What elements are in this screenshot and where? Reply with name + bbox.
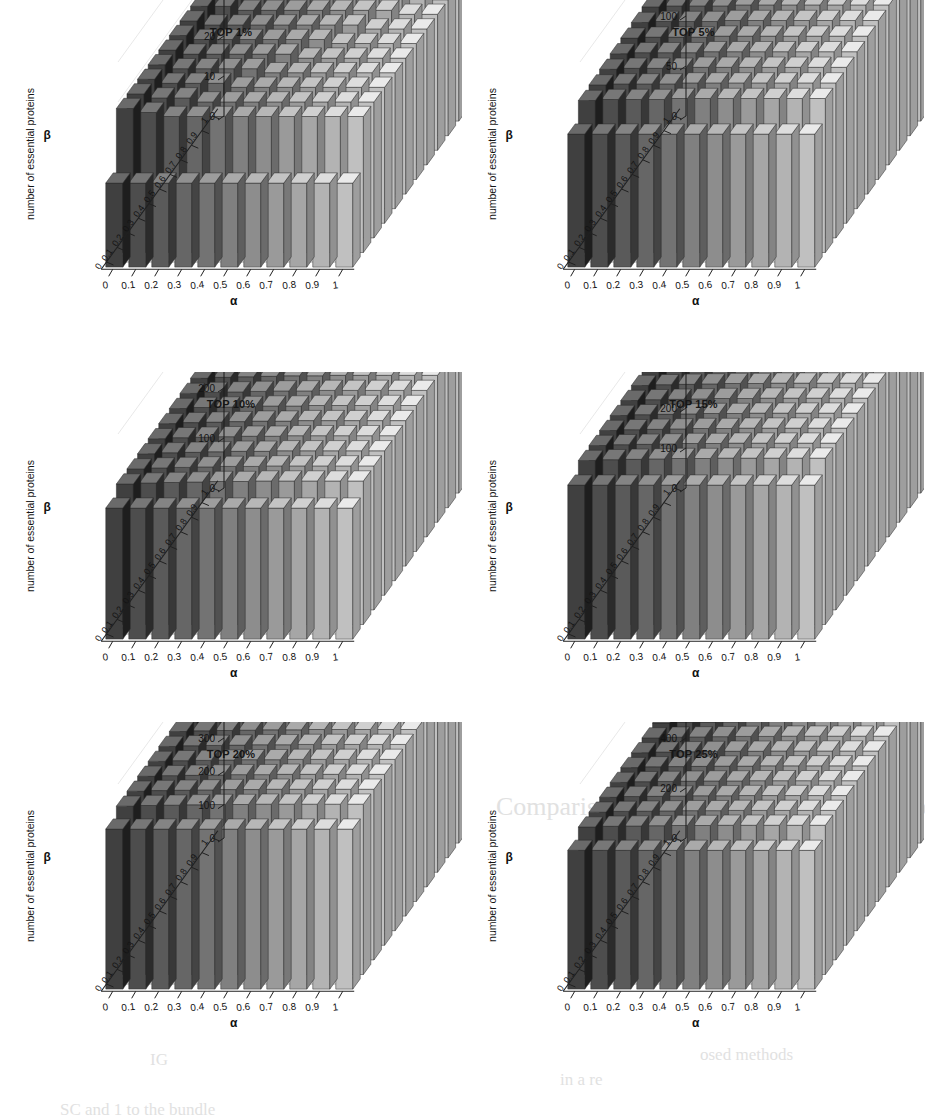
bar-side [654,475,661,639]
svg-text:0.2: 0.2 [144,278,160,291]
chart-panel-top-15: TOP 15% 010020030040050000.10.20.30.40.5… [462,372,925,722]
bar-side [284,173,291,267]
bar-side [836,800,843,960]
bar-side [910,0,917,136]
bar-side [406,410,413,566]
bar-side [123,819,130,989]
bar-side [900,0,907,150]
bar-side [284,498,291,639]
svg-text:0.2: 0.2 [606,278,622,291]
bar-front [752,485,769,639]
svg-text:0: 0 [564,279,571,291]
svg-text:0.4: 0.4 [190,650,206,663]
bar-side [585,475,592,639]
y-axis-title: number of essential proteins [24,460,36,592]
bar-side [448,722,455,858]
svg-text:1: 1 [332,279,339,291]
svg-text:0.2: 0.2 [606,1000,622,1013]
svg-text:0.6: 0.6 [698,650,714,663]
bar-side [700,840,707,989]
bar-front [267,829,284,989]
bar-side [910,372,917,508]
bar-front [244,829,261,989]
bar-side [836,433,843,610]
svg-text:0.3: 0.3 [629,650,645,663]
bar-side [146,819,153,989]
bar-side [385,77,392,223]
bar-front [683,134,700,267]
bar-side [857,403,864,581]
bar-group [106,722,462,989]
bar-side [769,475,776,639]
bar-front [175,829,192,989]
bar-side [363,471,370,625]
bar-side [238,173,245,267]
bar-group [568,0,924,267]
bar-side [677,124,684,267]
svg-text:0.4: 0.4 [652,650,668,663]
bar-side [825,448,832,625]
bar-front [336,508,353,639]
svg-text:0.3: 0.3 [167,650,183,663]
bar-side [215,173,222,267]
bar-side [825,815,832,974]
svg-text:1: 1 [794,651,801,663]
svg-text:200: 200 [198,383,215,394]
bar-front [267,183,284,267]
bar-side [857,770,864,930]
bar-side [921,372,924,493]
bar-side [792,124,799,267]
bar-front [221,829,238,989]
bar-side [631,475,638,639]
chart-title: TOP 25% [462,748,925,760]
svg-text:0.1: 0.1 [583,278,599,291]
svg-text:0.7: 0.7 [259,650,275,663]
bar-side [769,124,776,267]
x-axis-title: α [230,294,238,308]
svg-text:0.3: 0.3 [167,1000,183,1013]
x-axis-title: α [230,666,238,680]
bar-front [706,485,723,639]
bar-side [215,498,222,639]
bar-side [847,418,854,595]
bar-side [815,840,822,989]
svg-text:0.8: 0.8 [744,650,760,663]
svg-text:100: 100 [198,433,215,444]
svg-text:1: 1 [332,1001,339,1013]
svg-text:0.8: 0.8 [744,1000,760,1013]
bar-front [152,508,169,639]
svg-text:0: 0 [564,651,571,663]
bar-side [192,819,199,989]
bar-side [889,0,896,165]
bar-side [307,819,314,989]
bar-front [729,850,746,989]
bar-side [723,475,730,639]
bar-front [336,183,353,267]
svg-text:0.9: 0.9 [767,650,783,663]
svg-text:0.6: 0.6 [236,650,252,663]
svg-text:0.7: 0.7 [721,650,737,663]
bar-front [290,829,307,989]
bar-front [221,183,238,267]
bar-side [868,756,875,916]
svg-text:1: 1 [794,279,801,291]
bar-side [746,124,753,267]
bar-side [746,475,753,639]
svg-text:0.9: 0.9 [305,278,321,291]
svg-text:200: 200 [660,783,677,794]
bar-side [769,840,776,989]
bar-side [677,475,684,639]
bar-front [290,508,307,639]
bar-side [238,498,245,639]
bar-front [775,134,792,267]
bar-front [198,829,215,989]
bar-front [290,183,307,267]
svg-text:0.7: 0.7 [721,1000,737,1013]
svg-text:100: 100 [660,443,677,454]
svg-text:0.7: 0.7 [259,1000,275,1013]
bar-side [585,124,592,267]
svg-text:0.1: 0.1 [121,650,137,663]
svg-text:300: 300 [198,733,215,744]
svg-text:0.5: 0.5 [675,650,691,663]
bar-side [857,41,864,208]
